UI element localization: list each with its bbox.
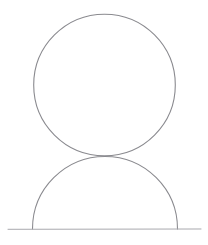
lower-semicircle <box>33 157 178 230</box>
upper-circle <box>34 14 176 156</box>
figure-canvas: Circle resting on a semicircle over a gr… <box>0 0 208 245</box>
geometric-figure-svg: Circle resting on a semicircle over a gr… <box>0 0 208 245</box>
